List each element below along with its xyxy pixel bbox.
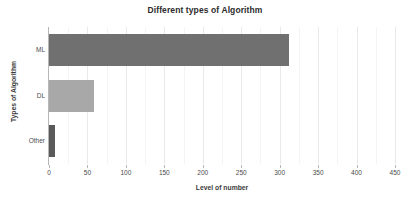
x-axis-tick-labels: 050100150200250300350400450 bbox=[0, 165, 410, 179]
y-tick-label-dl: DL bbox=[1, 92, 45, 99]
gridline-minor bbox=[376, 27, 377, 164]
x-tick-mark bbox=[164, 165, 165, 168]
bar-ml bbox=[49, 34, 289, 66]
x-tick-label-350: 350 bbox=[303, 169, 333, 176]
bar-other bbox=[49, 125, 55, 157]
y-tick-label-ml: ML bbox=[1, 46, 45, 53]
x-tick-label-100: 100 bbox=[111, 169, 141, 176]
y-axis-tick-labels: MLDLOther bbox=[0, 27, 45, 164]
x-tick-label-300: 300 bbox=[265, 169, 295, 176]
chart-title: Different types of Algorithm bbox=[0, 5, 410, 15]
y-tick-label-other: Other bbox=[1, 137, 45, 144]
gridline-minor bbox=[337, 27, 338, 164]
gridline-major bbox=[318, 27, 319, 164]
x-tick-label-400: 400 bbox=[342, 169, 372, 176]
x-tick-mark bbox=[318, 165, 319, 168]
x-tick-label-0: 0 bbox=[34, 169, 64, 176]
x-axis-title: Level of number bbox=[49, 184, 395, 191]
bar-dl bbox=[49, 80, 94, 112]
y-axis-title: Types of Algorithm bbox=[10, 37, 17, 147]
plot-area bbox=[49, 27, 395, 164]
x-tick-mark bbox=[395, 165, 396, 168]
x-tick-mark bbox=[203, 165, 204, 168]
gridline-major bbox=[357, 27, 358, 164]
gridline-minor bbox=[299, 27, 300, 164]
x-tick-label-150: 150 bbox=[149, 169, 179, 176]
x-tick-label-200: 200 bbox=[188, 169, 218, 176]
x-tick-mark bbox=[49, 165, 50, 168]
x-tick-mark bbox=[87, 165, 88, 168]
x-tick-label-450: 450 bbox=[380, 169, 410, 176]
gridline-major bbox=[395, 27, 396, 164]
x-tick-label-250: 250 bbox=[226, 169, 256, 176]
x-tick-mark bbox=[280, 165, 281, 168]
x-tick-label-50: 50 bbox=[72, 169, 102, 176]
x-tick-mark bbox=[357, 165, 358, 168]
x-tick-mark bbox=[126, 165, 127, 168]
chart-figure: Different types of Algorithm MLDLOther 0… bbox=[0, 0, 410, 209]
x-tick-mark bbox=[241, 165, 242, 168]
